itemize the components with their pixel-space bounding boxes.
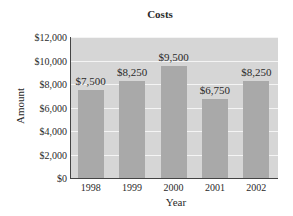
- bar-value-label: $9,500: [149, 51, 199, 63]
- y-tick-label: $2,000: [40, 149, 68, 160]
- y-tick-label: $4,000: [40, 126, 68, 137]
- x-tick-label: 2000: [154, 182, 194, 193]
- x-tick-label: 2001: [195, 182, 235, 193]
- bar-2001: [202, 99, 228, 178]
- bar-value-label: $6,750: [190, 84, 240, 96]
- chart-title: Costs: [0, 8, 293, 20]
- x-tick-label: 1999: [112, 182, 152, 193]
- y-tick-label: $10,000: [35, 55, 68, 66]
- y-tick-label: $6,000: [40, 102, 68, 113]
- x-tick-label: 1998: [71, 182, 111, 193]
- bar-value-label: $8,250: [231, 66, 281, 78]
- bar-1999: [119, 81, 145, 178]
- x-axis-label: Year: [146, 196, 206, 208]
- bar-2000: [161, 66, 187, 178]
- y-tick-label: $0: [57, 173, 67, 184]
- y-tick-label: $8,000: [40, 79, 68, 90]
- bar-chart: Costs Amount $0$2,000$4,000$6,000$8,000$…: [0, 0, 293, 216]
- y-tick-label: $12,000: [35, 32, 68, 43]
- bar-2002: [243, 81, 269, 178]
- x-tick-label: 2002: [236, 182, 276, 193]
- plot-area: $7,500$8,250$9,500$6,750$8,250: [70, 37, 278, 179]
- bar-1998: [78, 90, 104, 178]
- bar-value-label: $8,250: [107, 66, 157, 78]
- y-axis-label: Amount: [14, 76, 26, 136]
- gridline: [71, 37, 278, 38]
